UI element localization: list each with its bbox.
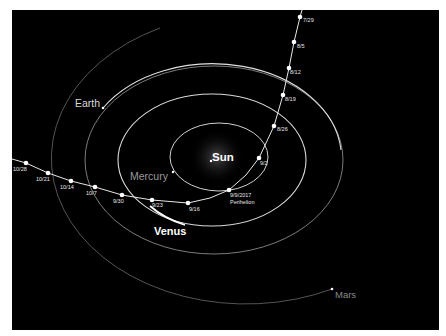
marker-dot — [24, 161, 29, 166]
mars-dot — [331, 288, 334, 291]
mercury-dot — [172, 171, 174, 173]
date-label: 9/30 — [113, 198, 124, 204]
sun-label: Sun — [212, 151, 234, 163]
marker-dot — [272, 124, 277, 129]
mercury-label: Mercury — [130, 170, 169, 182]
marker-dot — [292, 40, 297, 45]
date-label: 8/19 — [285, 96, 296, 102]
marker-dot — [298, 15, 303, 20]
venus-label: Venus — [154, 225, 186, 237]
date-label: 9/2 — [260, 160, 268, 166]
marker-dot — [93, 185, 98, 190]
marker-dot — [46, 171, 51, 176]
marker-dot — [186, 201, 191, 206]
date-label: 8/5 — [297, 43, 305, 49]
date-label: 10/7 — [86, 190, 97, 196]
date-label: 8/26 — [277, 126, 288, 132]
mars-label: Mars — [335, 289, 356, 300]
earth-dot — [102, 107, 105, 110]
date-label: 10/21 — [36, 176, 50, 182]
date-label: 7/29 — [303, 17, 314, 23]
date-label: 9/16 — [189, 206, 200, 212]
perihelion-label: Perihelion — [230, 199, 254, 205]
date-label: 8/12 — [290, 69, 301, 75]
date-label: 9/9/2017 — [230, 192, 251, 198]
marker-dot — [120, 193, 125, 198]
marker-dot — [69, 179, 74, 184]
earth-label: Earth — [75, 97, 100, 109]
orbit-diagram: 7/29 8/5 8/12 8/19 8/26 9/2 9/9/2017 Per… — [0, 0, 446, 336]
date-label: 10/14 — [60, 184, 74, 190]
date-label: 9/23 — [152, 202, 163, 208]
date-label: 10/28 — [13, 166, 27, 172]
